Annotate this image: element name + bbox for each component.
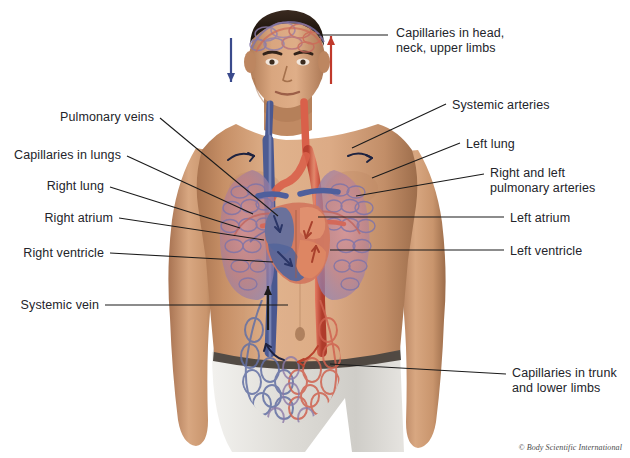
label-line: Right ventricle xyxy=(0,246,104,261)
label-pulmonary-veins: Pulmonary veins xyxy=(0,110,154,125)
label-line: Systemic arteries xyxy=(452,98,550,113)
label-right-lung: Right lung xyxy=(0,179,104,194)
label-line: Capillaries in lungs xyxy=(0,148,121,163)
label-right-ventricle: Right ventricle xyxy=(0,246,104,261)
label-capillaries-trunk: Capillaries in trunkand lower limbs xyxy=(512,366,617,396)
label-pulmonary-arteries: Right and leftpulmonary arteries xyxy=(490,166,595,196)
ear-left xyxy=(244,51,256,73)
ear-right xyxy=(318,51,330,73)
copyright-credit: © Body Scientific International xyxy=(518,443,622,452)
label-right-atrium: Right atrium xyxy=(0,211,113,226)
label-line: Right and left xyxy=(490,166,595,181)
label-line: Pulmonary veins xyxy=(0,110,154,125)
label-capillaries-head: Capillaries in head,neck, upper limbs xyxy=(396,26,504,56)
label-line: and lower limbs xyxy=(512,381,617,396)
label-line: Right atrium xyxy=(0,211,113,226)
circulatory-system-figure: Capillaries in head,neck, upper limbsSys… xyxy=(0,0,630,458)
pupil-left xyxy=(269,59,274,64)
pulmonary-artery-right xyxy=(258,194,286,196)
label-left-ventricle: Left ventricle xyxy=(510,244,582,259)
label-systemic-arteries: Systemic arteries xyxy=(452,98,550,113)
label-left-lung: Left lung xyxy=(466,137,515,152)
label-line: Capillaries in trunk xyxy=(512,366,617,381)
label-line: neck, upper limbs xyxy=(396,41,504,56)
carotid-artery xyxy=(304,102,306,152)
label-line: pulmonary arteries xyxy=(490,181,595,196)
label-line: Systemic vein xyxy=(0,298,99,313)
label-line: Right lung xyxy=(0,179,104,194)
label-capillaries-lungs: Capillaries in lungs xyxy=(0,148,121,163)
label-systemic-vein: Systemic vein xyxy=(0,298,99,313)
label-line: Left atrium xyxy=(510,211,570,226)
label-left-atrium: Left atrium xyxy=(510,211,570,226)
label-line: Capillaries in head, xyxy=(396,26,504,41)
label-line: Left lung xyxy=(466,137,515,152)
pupil-right xyxy=(300,59,305,64)
label-line: Left ventricle xyxy=(510,244,582,259)
